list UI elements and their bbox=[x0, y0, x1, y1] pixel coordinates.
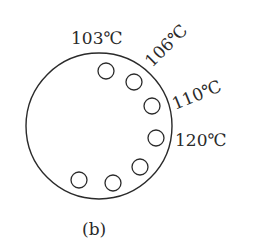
hole-5 bbox=[132, 159, 148, 175]
label-120: 120℃ bbox=[175, 130, 226, 150]
hole-7 bbox=[71, 172, 87, 188]
label-106: 106℃ bbox=[141, 20, 192, 71]
label-103: 103℃ bbox=[71, 28, 122, 48]
holes bbox=[71, 63, 164, 191]
diagram-canvas: 103℃ 106℃ 110℃ 120℃ (b) bbox=[0, 0, 253, 251]
caption: (b) bbox=[82, 219, 106, 239]
hole-3 bbox=[144, 98, 160, 114]
hole-2 bbox=[126, 74, 142, 90]
hole-6 bbox=[105, 175, 121, 191]
hole-1 bbox=[98, 63, 114, 79]
label-110: 110℃ bbox=[169, 76, 224, 114]
hole-4 bbox=[148, 130, 164, 146]
